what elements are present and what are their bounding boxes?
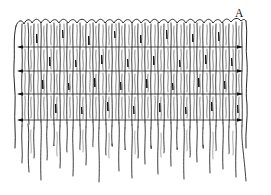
panel-label-a: A bbox=[235, 7, 244, 19]
figure-drawing: A bbox=[0, 0, 271, 195]
figure-panel: A bbox=[0, 0, 271, 195]
